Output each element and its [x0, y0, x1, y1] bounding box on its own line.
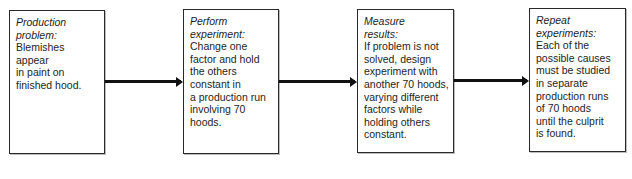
step-heading: Measure results:	[364, 15, 453, 40]
body-line: varying different	[364, 91, 453, 104]
body-line: involving 70	[190, 103, 278, 116]
step-body: Blemishes appear in paint on finished ho…	[16, 41, 104, 91]
body-line: factors while	[364, 103, 453, 116]
body-line: is found.	[536, 127, 625, 140]
body-line: must be studied	[536, 64, 625, 77]
body-line: Each of the	[536, 39, 625, 52]
step-body: If problem is not solved, design experim…	[364, 40, 453, 141]
body-line: solved, design	[364, 53, 453, 66]
body-line: holding others	[364, 116, 453, 129]
heading-line: problem:	[16, 29, 104, 42]
step-box-measure-results: Measure results: If problem is not solve…	[357, 9, 454, 153]
body-line: constant in	[190, 78, 278, 91]
body-line: If problem is not	[364, 40, 453, 53]
body-line: experiment with	[364, 65, 453, 78]
step-heading: Production problem:	[16, 16, 104, 41]
heading-line: Repeat	[536, 14, 625, 27]
heading-line: results:	[364, 28, 453, 41]
step-box-repeat-experiments: Repeat experiments: Each of the possible…	[529, 8, 626, 152]
step-body: Change one factor and hold the others co…	[190, 40, 278, 128]
body-line: of 70 hoods	[536, 102, 625, 115]
arrow-step3-to-step4	[454, 79, 527, 82]
step-box-production-problem: Production problem: Blemishes appear in …	[9, 10, 105, 154]
body-line: in separate	[536, 77, 625, 90]
arrow-step2-to-step3	[279, 80, 355, 83]
body-line: appear	[16, 54, 104, 67]
arrow-step1-to-step2	[105, 80, 181, 83]
body-line: hoods.	[190, 116, 278, 129]
body-line: factor and hold	[190, 53, 278, 66]
body-line: production runs	[536, 90, 625, 103]
body-line: a production run	[190, 91, 278, 104]
heading-line: Perform	[190, 15, 278, 28]
heading-line: Production	[16, 16, 104, 29]
body-line: in paint on	[16, 66, 104, 79]
body-line: the others	[190, 65, 278, 78]
body-line: constant.	[364, 128, 453, 141]
body-line: Blemishes	[16, 41, 104, 54]
body-line: until the culprit	[536, 115, 625, 128]
heading-line: experiments:	[536, 27, 625, 40]
step-box-perform-experiment: Perform experiment: Change one factor an…	[183, 9, 279, 154]
body-line: Change one	[190, 40, 278, 53]
heading-line: Measure	[364, 15, 453, 28]
body-line: another 70 hoods,	[364, 78, 453, 91]
body-line: finished hood.	[16, 79, 104, 92]
step-heading: Repeat experiments:	[536, 14, 625, 39]
step-body: Each of the possible causes must be stud…	[536, 39, 625, 140]
heading-line: experiment:	[190, 28, 278, 41]
body-line: possible causes	[536, 52, 625, 65]
step-heading: Perform experiment:	[190, 15, 278, 40]
